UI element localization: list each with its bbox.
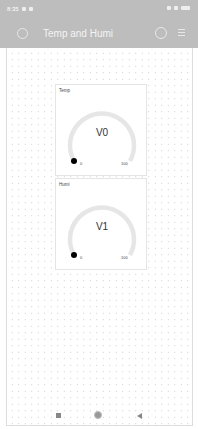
back-nav-icon[interactable] [137,413,142,419]
back-icon[interactable] [17,28,28,39]
gauge-min: 0 [80,161,82,166]
battery-icon [181,6,190,10]
status-bar: 8:35 [0,0,198,20]
notification-icon [29,7,33,11]
gauge-max: 100 [121,161,128,166]
system-nav-bar [0,405,198,425]
gauge-max: 100 [121,255,128,260]
recent-apps-icon[interactable] [56,413,61,418]
notification-icon [22,7,26,11]
gauge-value: V0 [56,127,148,138]
menu-icon[interactable] [178,29,185,38]
wifi-icon [174,6,178,10]
gauge-widget-humi[interactable]: Humi V1 0 100 [55,178,147,270]
gauge-value: V1 [56,221,148,232]
gauge-min: 0 [80,255,82,260]
settings-icon[interactable] [155,27,167,39]
signal-icon [167,6,171,10]
app-bar: Temp and Humi [0,20,198,48]
page-title: Temp and Humi [43,28,113,39]
home-icon[interactable] [94,411,102,419]
status-time: 8:35 [7,6,19,12]
gauge-widget-temp[interactable]: Temp V0 0 100 [55,84,147,176]
